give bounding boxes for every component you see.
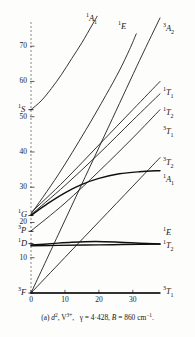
y-tick-label-10: 10 xyxy=(12,254,27,262)
free-ion-term-label-3P: 3P xyxy=(18,226,26,235)
y-tick-label-40: 40 xyxy=(12,148,27,156)
x-tick-label-10: 10 xyxy=(57,296,73,304)
tanabe-sugano-figure: 10203040506070 0102030 3F1D3P1G1S 3A21T1… xyxy=(0,0,195,337)
curve-group xyxy=(31,16,160,293)
x-tick-label-20: 20 xyxy=(91,296,107,304)
right-term-label-1T2: 1T2 xyxy=(163,241,173,250)
right-term-label-1E: 1E xyxy=(163,228,171,237)
right-term-label-1T1: 1T1 xyxy=(163,88,173,97)
right-term-label-3T2: 3T2 xyxy=(163,158,173,167)
right-term-label-3A2: 3A2 xyxy=(163,24,174,33)
free-ion-level-stubs xyxy=(29,110,34,293)
right-term-label-3T1: 3T1 xyxy=(163,127,173,136)
energy-curve-3t2 xyxy=(31,158,160,293)
right-term-label-1A1: 1A1 xyxy=(163,175,174,184)
free-ion-term-label-1S: 1S xyxy=(18,105,25,114)
energy-curve-1eupper xyxy=(31,34,136,214)
energy-curve-1a1s xyxy=(31,16,97,109)
figure-caption: (a) d2, V3+, γ = 4·428, B = 860 cm−1. xyxy=(0,314,195,323)
free-ion-term-label-1G: 1G xyxy=(18,210,27,219)
y-tick-label-60: 60 xyxy=(12,77,27,85)
top-term-label-1E: 1E xyxy=(118,22,126,31)
free-ion-term-label-3F: 3F xyxy=(18,288,26,297)
y-tick-label-50: 50 xyxy=(12,113,27,121)
free-ion-term-label-1D: 1D xyxy=(18,239,27,248)
y-tick-label-70: 70 xyxy=(12,42,27,50)
x-tick-label-30: 30 xyxy=(125,296,141,304)
top-term-label-1A1: 1A1 xyxy=(86,14,97,23)
x-tick-label-0: 0 xyxy=(23,296,39,304)
energy-curve-3a2 xyxy=(31,18,160,293)
tick-marks-group xyxy=(30,46,133,293)
right-term-label-3T1: 3T1 xyxy=(163,287,173,296)
energy-curve-3t1p xyxy=(31,110,160,231)
y-tick-label-30: 30 xyxy=(12,183,27,191)
right-term-label-1T2: 1T2 xyxy=(163,108,173,117)
energy-curve-1t1 xyxy=(31,81,160,212)
